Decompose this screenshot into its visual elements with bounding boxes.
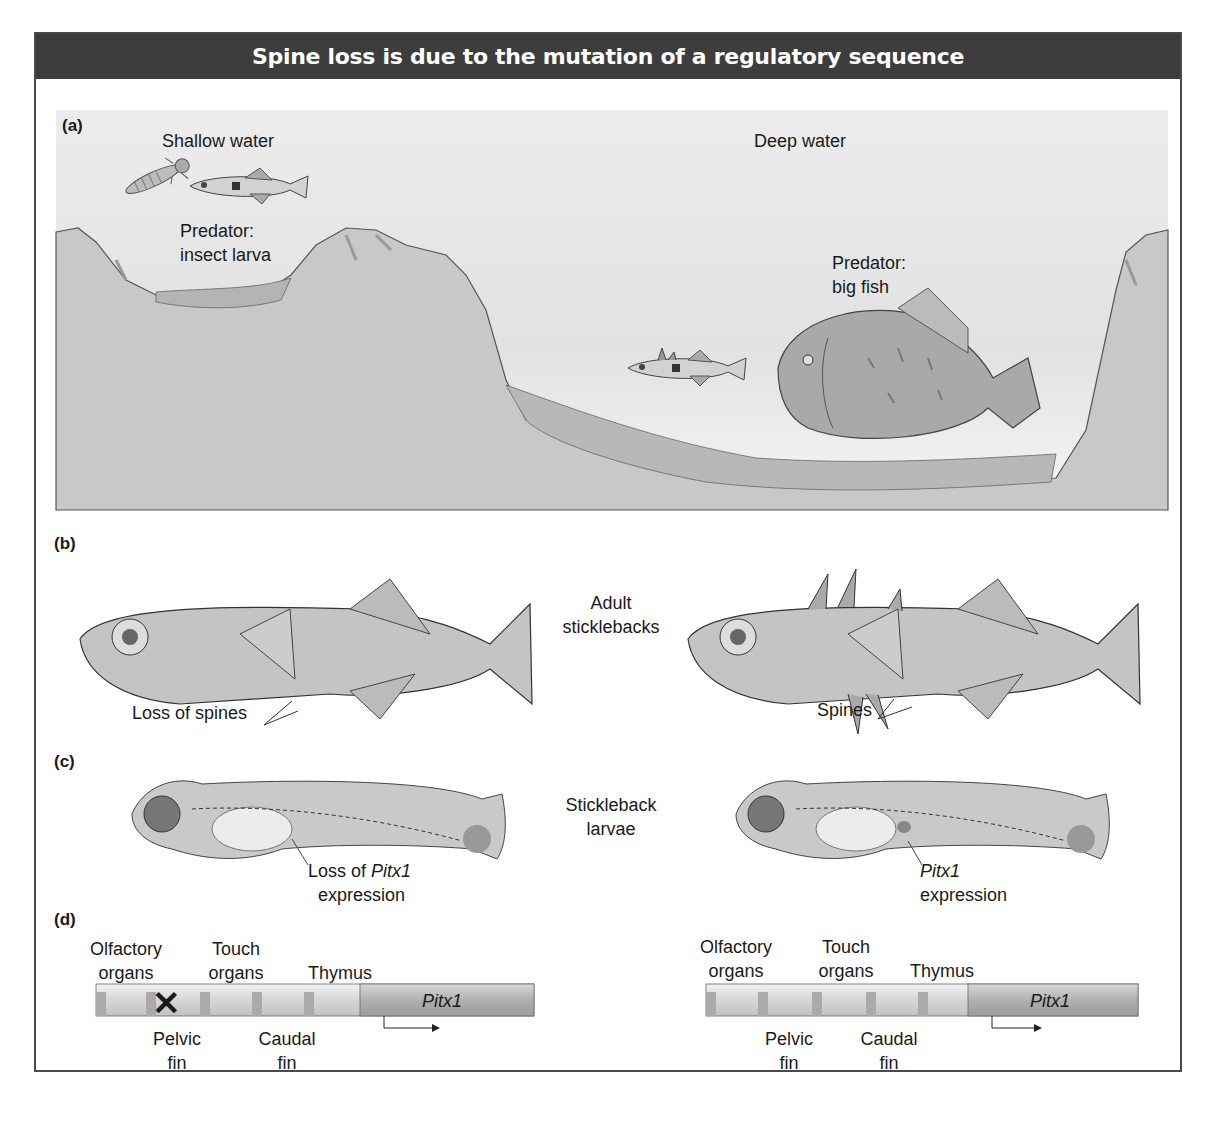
thymus-label-right: Thymus xyxy=(892,960,992,982)
caudal-label-line1-right: Caudal xyxy=(844,1028,934,1050)
pitx1-callout-line1: Pitx1 xyxy=(920,860,960,882)
caudal-label-line1: Caudal xyxy=(242,1028,332,1050)
panel-d-label: (d) xyxy=(54,910,76,930)
caudal-label-line2: fin xyxy=(242,1052,332,1074)
pelvic-label-line2: fin xyxy=(132,1052,222,1074)
shallow-predator-line2: insect larva xyxy=(180,244,271,266)
lake-cross-section-illustration xyxy=(56,110,1168,510)
adult-label-line2: sticklebacks xyxy=(546,616,676,638)
panel-a-habitat: (a) Shallow water Predator: insect larva… xyxy=(56,110,1168,510)
deep-predator-line2: big fish xyxy=(832,276,889,298)
thymus-label: Thymus xyxy=(290,962,390,984)
loss-pitx1-callout-line2: expression xyxy=(318,884,405,906)
larva-loss-pitx1-icon xyxy=(132,781,505,859)
pitx1-gene-label-mutant: Pitx1 xyxy=(422,990,462,1012)
adult-stickleback-no-spines-icon xyxy=(80,579,532,719)
larvae-label-line2: larvae xyxy=(546,818,676,840)
shallow-predator-line1: Predator: xyxy=(180,220,254,242)
pelvic-label-line2-right: fin xyxy=(744,1052,834,1074)
stickleback-shallow-icon xyxy=(190,168,308,204)
pelvic-label-line1-right: Pelvic xyxy=(744,1028,834,1050)
olfactory-label-line1: Olfactory xyxy=(76,938,176,960)
larvae-label-line1: Stickleback xyxy=(546,794,676,816)
pitx1-gene-label-wildtype: Pitx1 xyxy=(1030,990,1070,1012)
larva-pitx1-expression-icon xyxy=(736,781,1109,859)
panel-a-label: (a) xyxy=(62,116,83,136)
stickleback-deep-icon xyxy=(628,348,746,386)
olfactory-label-line2: organs xyxy=(76,962,176,984)
spines-callout: Spines xyxy=(817,699,872,721)
adult-stickleback-with-spines-icon xyxy=(688,569,1140,734)
touch-label-line1-right: Touch xyxy=(796,936,896,958)
olfactory-label-line1-right: Olfactory xyxy=(686,936,786,958)
shallow-water-heading: Shallow water xyxy=(162,130,274,152)
loss-pitx1-callout-line1: Loss of Pitx1 xyxy=(308,860,411,882)
figure-frame: Spine loss is due to the mutation of a r… xyxy=(34,32,1182,1072)
caudal-label-line2-right: fin xyxy=(844,1052,934,1074)
deep-water-heading: Deep water xyxy=(754,130,846,152)
adult-label-line1: Adult xyxy=(556,592,666,614)
deep-predator-line1: Predator: xyxy=(832,252,906,274)
touch-label-line1: Touch xyxy=(186,938,286,960)
pitx1-callout-line2: expression xyxy=(920,884,1007,906)
figure-title: Spine loss is due to the mutation of a r… xyxy=(36,34,1180,79)
mutation-x-icon: ✕ xyxy=(152,986,180,1020)
insect-larva-icon xyxy=(120,150,194,205)
pelvic-label-line1: Pelvic xyxy=(132,1028,222,1050)
loss-of-spines-callout: Loss of spines xyxy=(132,702,247,724)
big-fish-predator-icon xyxy=(778,288,1040,438)
touch-label-line2-right: organs xyxy=(796,960,896,982)
olfactory-label-line2-right: organs xyxy=(686,960,786,982)
touch-label-line2: organs xyxy=(186,962,286,984)
